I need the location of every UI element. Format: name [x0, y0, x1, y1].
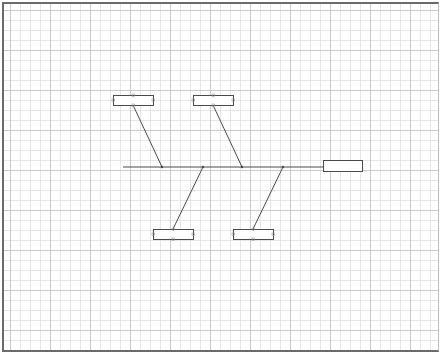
- cause-box[interactable]: [232, 228, 275, 241]
- cause-box[interactable]: [152, 228, 195, 241]
- fishbone-diagram: [0, 0, 441, 358]
- bone-line[interactable]: [173, 167, 203, 229]
- bone-line[interactable]: [133, 105, 162, 167]
- bone-bottom-2[interactable]: [232, 166, 284, 241]
- joint-dot: [241, 166, 243, 168]
- bone-top-1[interactable]: [112, 94, 163, 168]
- head-box[interactable]: [324, 161, 363, 172]
- joint-dot: [161, 166, 163, 168]
- bone-bottom-1[interactable]: [152, 166, 204, 241]
- bone-line[interactable]: [213, 105, 242, 167]
- joint-dot: [202, 166, 204, 168]
- bone-line[interactable]: [253, 167, 283, 229]
- cause-box[interactable]: [112, 94, 155, 107]
- cause-box[interactable]: [192, 94, 235, 107]
- bone-top-2[interactable]: [192, 94, 243, 168]
- joint-dot: [282, 166, 284, 168]
